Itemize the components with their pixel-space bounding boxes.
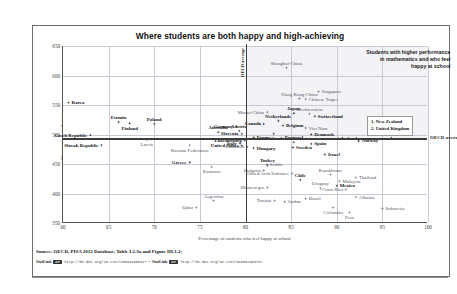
data-point-label: Spain: [314, 141, 326, 146]
data-point-label: Poland: [147, 117, 162, 122]
data-point-label: Macao-China: [237, 110, 264, 115]
data-point-label: Qatar: [182, 205, 193, 210]
data-point-label: Montenegro: [240, 185, 264, 190]
y-tick-label: 450: [52, 161, 60, 167]
x-tick-label: 75: [197, 224, 202, 230]
data-point-label: Thailand: [359, 175, 376, 180]
y-tick-label: 600: [52, 73, 60, 79]
x-tick-label: 100: [424, 224, 432, 230]
x-tick-label: 65: [106, 224, 111, 230]
data-point-marker: [299, 178, 302, 181]
oecd-average-vertical-label: OECD average: [240, 48, 269, 53]
page-title: Where students are both happy and high-a…: [32, 31, 448, 41]
data-point-label: Hungary: [257, 146, 276, 151]
x-tick-label: 95: [380, 224, 385, 230]
oecd-average-horizontal-line: [63, 138, 427, 140]
data-point-label: Kazakhstan: [319, 168, 342, 173]
x-tick-label: 85: [289, 224, 294, 230]
quadrant-annotation: Students with higher performance in math…: [341, 49, 451, 70]
data-point-label: Albania: [359, 195, 374, 200]
data-point-label: Peru: [345, 215, 354, 220]
statlink-separator: •: [148, 259, 150, 264]
x-tick-label: 70: [152, 224, 157, 230]
data-point-label: Belgium: [286, 123, 303, 128]
data-point-label: Russian Federation: [171, 148, 209, 153]
data-point-marker: [266, 186, 269, 189]
y-tick-label: 350: [52, 220, 60, 226]
data-point-label: Denmark: [314, 132, 334, 137]
data-point-label: Uruguay: [312, 181, 329, 186]
data-point-marker: [283, 200, 286, 203]
data-point-label: Slovak Republic: [64, 143, 98, 148]
data-point-marker: [338, 179, 341, 182]
statlink-label-2: StatLink: [152, 259, 167, 264]
data-point-marker: [323, 153, 326, 156]
data-point-marker: [304, 197, 307, 200]
data-point-label: Slovenia: [221, 131, 239, 136]
data-point-marker: [67, 101, 70, 104]
data-point-label: Finland: [122, 126, 138, 131]
x-tick-label: 80: [243, 224, 248, 230]
data-point-marker: [188, 143, 191, 146]
data-point-label: Singapore: [322, 89, 342, 94]
x-axis-title: Percentage of students who feel happy at…: [62, 236, 427, 241]
data-point-label: Latvia: [140, 142, 153, 147]
data-point-label: United Arab Emirates: [246, 171, 289, 176]
data-point-label: Estonia: [111, 115, 127, 120]
gridline-vertical: [428, 46, 429, 222]
data-point-marker: [357, 139, 360, 142]
data-point-marker: [216, 130, 219, 133]
data-point-marker: [252, 146, 255, 149]
data-point-marker: [128, 122, 131, 125]
data-point-label: Israel: [328, 152, 340, 157]
data-point-label: Sweden: [296, 145, 312, 150]
data-point-label: Chinese Taipei: [309, 97, 338, 102]
y-tick-label: 400: [52, 191, 60, 197]
chain-link-icon: ☌☍: [53, 260, 62, 264]
data-point-label: Netherlands: [265, 114, 291, 119]
data-point-label: Germany: [213, 124, 233, 129]
source-note: Source: OECD, PISA 2012 Database, Table …: [36, 249, 182, 254]
statlink-row: StatLink ☌☍ http://dx.doi.org/10.1787/88…: [36, 259, 262, 264]
data-point-marker: [273, 199, 276, 202]
y-tick-label: 650: [52, 43, 60, 49]
data-point-marker: [381, 207, 384, 210]
y-tick-label: 550: [52, 102, 60, 108]
statlink-url-2[interactable]: http://dx.doi.org/10.1787/888932963787: [180, 260, 262, 264]
footer-divider: [32, 277, 448, 278]
data-point-label: Switzerland: [318, 114, 343, 119]
data-point-marker: [354, 195, 357, 198]
data-point-label: Shanghai-China: [271, 61, 303, 66]
data-point-label: Chile: [295, 173, 306, 178]
data-point-label: Jordan: [288, 199, 301, 204]
data-point-marker: [153, 122, 156, 125]
data-point-marker: [292, 140, 295, 143]
x-tick-label: 90: [334, 224, 339, 230]
data-point-marker: [210, 165, 213, 168]
data-point-marker: [212, 199, 215, 202]
data-point-label: Czech Republic: [54, 133, 87, 138]
data-point-label: Brazil: [309, 196, 321, 201]
numbered-legend: 1. New Zealand 2. United Kingdom: [367, 116, 413, 136]
data-point-label: Indonesia: [385, 206, 404, 211]
data-point-marker: [117, 120, 120, 123]
data-point-label: Colombia: [324, 210, 343, 215]
data-point-label: Canada: [245, 121, 261, 126]
data-point-marker: [329, 173, 332, 176]
statlink-label-1: StatLink: [36, 259, 51, 264]
data-point-label: United States: [211, 143, 239, 148]
data-point-marker: [331, 206, 334, 209]
data-point-label: Argentina: [204, 194, 223, 199]
figure-root: Where students are both happy and high-a…: [0, 0, 457, 294]
data-point-marker: [195, 206, 198, 209]
oecd-average-vertical-line: [246, 44, 248, 222]
data-point-label: Tunisia: [257, 198, 272, 203]
data-point-label: Viet Nam: [309, 126, 328, 131]
data-point-label: Costa Rica: [322, 187, 343, 192]
data-point-marker: [100, 143, 103, 146]
data-point-marker: [348, 211, 351, 214]
data-point-label: Serbia: [269, 162, 282, 167]
statlink-url-1[interactable]: http://dx.doi.org/10.1787/888932935447: [64, 260, 146, 264]
x-tick-label: 60: [60, 224, 65, 230]
oecd-vertical-text: OECD average: [240, 48, 245, 77]
